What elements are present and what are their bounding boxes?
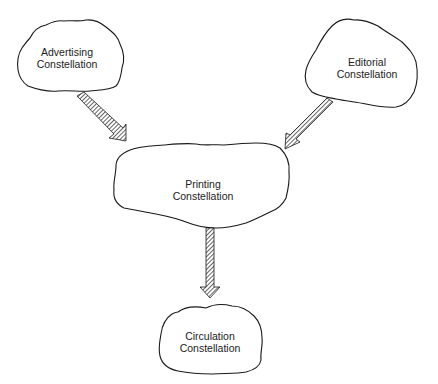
node-advertising-line1: Advertising: [37, 46, 98, 58]
arrow-printing-to-circulation: [200, 228, 220, 298]
node-printing: Printing Constellation: [173, 178, 234, 202]
node-circulation: Circulation Constellation: [180, 330, 241, 354]
node-advertising: Advertising Constellation: [37, 46, 98, 70]
node-editorial-line2: Constellation: [337, 68, 398, 80]
node-circulation-line2: Constellation: [180, 342, 241, 354]
node-circulation-line1: Circulation: [180, 330, 241, 342]
arrow-advertising-to-printing: [77, 92, 126, 141]
node-advertising-line2: Constellation: [37, 58, 98, 70]
arrow-editorial-to-printing: [285, 98, 333, 149]
node-editorial-line1: Editorial: [337, 56, 398, 68]
node-editorial: Editorial Constellation: [337, 56, 398, 80]
node-printing-line1: Printing: [173, 178, 234, 190]
node-printing-line2: Constellation: [173, 190, 234, 202]
